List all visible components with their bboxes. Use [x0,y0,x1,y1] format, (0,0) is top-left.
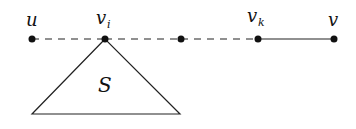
label-u: u [26,9,38,30]
label-v: v [328,9,338,30]
label-vk-sub: k [258,16,265,29]
label-vi-sub: i [107,18,111,31]
subtree-label: S [98,73,112,97]
node-v [331,36,338,43]
node-vk [255,36,262,43]
node-vi [102,36,109,43]
path-diagram: S u v i v k v [0,0,356,129]
label-vk: v [247,5,257,26]
node-u [29,36,36,43]
node-mid [178,36,185,43]
label-vi: v [96,7,106,28]
